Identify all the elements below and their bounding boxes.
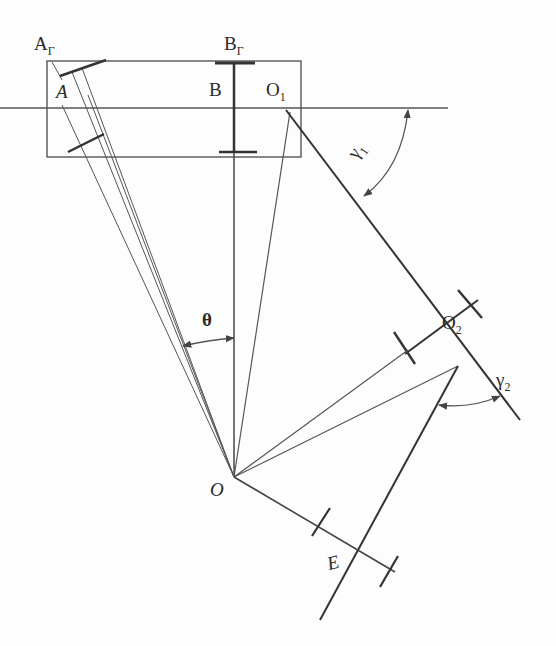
gamma2-arc: [439, 396, 500, 406]
label-b-gamma: BГ: [224, 34, 244, 57]
label-o1: O1: [266, 80, 286, 103]
main-inclined-line: [286, 110, 520, 420]
label-b: B: [209, 80, 222, 99]
theta-arc: [183, 338, 234, 346]
label-gamma2: γ2: [496, 370, 510, 393]
diagram-canvas: AГ BГ A B O1 O2 O E θ γ1 γ2: [0, 0, 556, 646]
label-a-gamma: AГ: [34, 34, 55, 57]
label-o: O: [210, 480, 224, 499]
label-o2: O2: [442, 313, 462, 336]
label-theta: θ: [202, 310, 212, 329]
secondary-inclined-line: [320, 366, 458, 620]
a-rays: [52, 62, 234, 477]
label-a: A: [56, 82, 68, 101]
